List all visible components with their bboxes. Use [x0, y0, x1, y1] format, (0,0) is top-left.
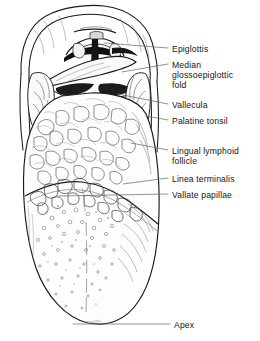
tongue-anatomy-illustration [0, 0, 260, 341]
label-lingual-lymphoid-follicle: Lingual lymphoid follicle [172, 146, 239, 166]
label-vallate-papillae: Vallate papillae [172, 190, 232, 200]
label-apex: Apex [174, 320, 194, 330]
tongue-body-group [24, 93, 160, 324]
leader-palatine-tonsil [146, 116, 168, 120]
label-median-glossoepiglottic-fold: Median glossoepiglottic fold [172, 60, 233, 91]
label-vallecula: Vallecula [172, 100, 208, 110]
label-linea-terminalis: Linea terminalis [172, 174, 235, 184]
figure-container: Epiglottis Median glossoepiglottic fold … [0, 0, 260, 341]
label-epiglottis: Epiglottis [172, 44, 208, 54]
label-palatine-tonsil: Palatine tonsil [172, 116, 228, 126]
